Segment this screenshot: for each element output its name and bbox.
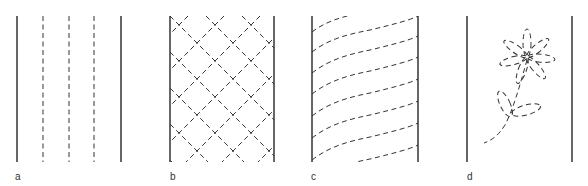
panel-label-b: b bbox=[170, 171, 176, 182]
panel-a: a bbox=[15, 16, 121, 182]
pattern-figure: a b bbox=[0, 0, 588, 186]
flower-stem bbox=[484, 60, 527, 143]
panel-label-a: a bbox=[15, 171, 21, 182]
panel-c: c bbox=[311, 0, 418, 182]
panel-d: d bbox=[467, 16, 572, 182]
crosshatch bbox=[0, 16, 440, 162]
flower-icon bbox=[484, 29, 555, 143]
panel-b: b bbox=[0, 16, 440, 182]
leaf bbox=[510, 101, 542, 118]
leaf bbox=[495, 89, 516, 119]
panel-label-c: c bbox=[311, 171, 316, 182]
wavy-lines bbox=[312, 0, 418, 182]
panel-label-d: d bbox=[467, 171, 473, 182]
